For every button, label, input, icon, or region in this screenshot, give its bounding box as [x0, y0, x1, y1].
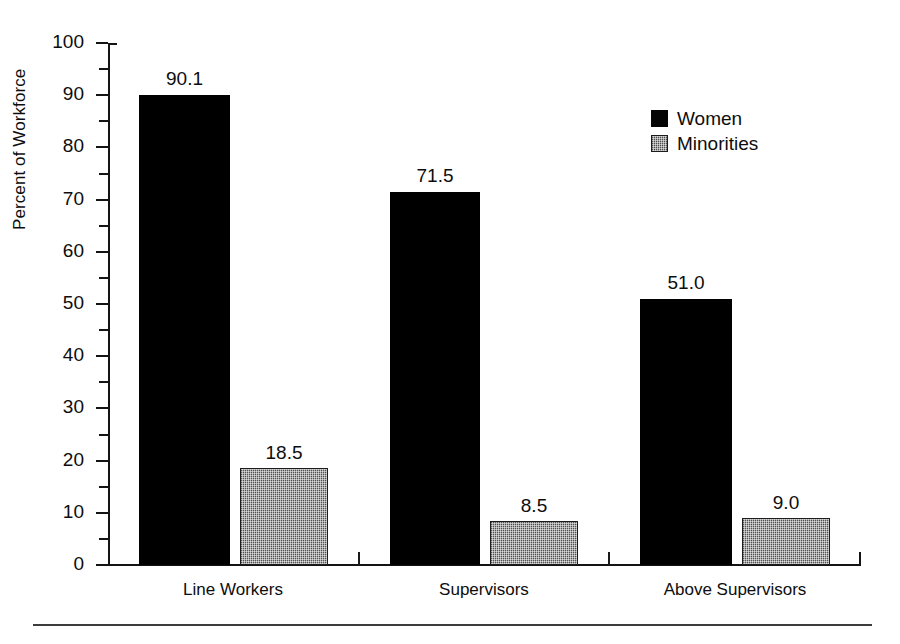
y-axis-tick	[96, 199, 108, 201]
bar-chart-figure: Percent of Workforce 1009080706050403020…	[0, 0, 900, 644]
bar-women-2: 51.0	[640, 299, 732, 565]
y-axis-tick-label: 80	[0, 135, 84, 157]
bar-women-1: 71.5	[390, 192, 480, 565]
y-axis-tick	[96, 303, 108, 305]
legend-swatch-minorities-icon	[651, 135, 668, 152]
bar-value-label: 90.1	[166, 68, 203, 90]
y-axis-minor-tick	[99, 173, 108, 175]
y-axis-tick-label: 40	[0, 344, 84, 366]
legend-label-women: Women	[677, 109, 742, 128]
bar-value-label: 8.5	[521, 495, 547, 517]
y-axis-tick	[96, 94, 108, 96]
bar-value-label: 51.0	[668, 272, 705, 294]
legend-item-minorities: Minorities	[651, 131, 758, 156]
bar-value-label: 9.0	[773, 492, 799, 514]
legend-item-women: Women	[651, 106, 758, 131]
x-axis-category-label: Above Supervisors	[664, 580, 807, 600]
bar-women-0: 90.1	[139, 95, 230, 565]
y-axis-tick	[96, 146, 108, 148]
bar-value-label: 18.5	[266, 442, 303, 464]
legend-swatch-women-icon	[651, 110, 668, 127]
x-axis-category-label: Supervisors	[439, 580, 529, 600]
bottom-rule-divider	[33, 624, 872, 626]
y-axis-tick-label: 90	[0, 83, 84, 105]
y-axis-minor-tick	[99, 434, 108, 436]
y-axis-minor-tick	[99, 538, 108, 540]
y-axis-tick-label: 50	[0, 292, 84, 314]
y-axis-tick	[96, 42, 108, 44]
y-axis-tick-label: 0	[0, 553, 84, 575]
y-axis-tick	[96, 251, 108, 253]
y-axis-tick	[96, 407, 108, 409]
y-axis-tick	[96, 564, 108, 566]
y-axis-tick	[96, 460, 108, 462]
y-axis-minor-tick	[99, 120, 108, 122]
bar-value-label: 71.5	[417, 165, 454, 187]
legend: Women Minorities	[651, 106, 758, 156]
y-axis-minor-tick	[99, 277, 108, 279]
y-axis-minor-tick	[99, 225, 108, 227]
x-axis-category-label: Line Workers	[183, 580, 283, 600]
legend-label-minorities: Minorities	[677, 134, 758, 153]
y-axis-tick-label: 70	[0, 188, 84, 210]
y-axis-tick	[96, 355, 108, 357]
y-axis-tick-label: 30	[0, 396, 84, 418]
y-axis-tick-label: 10	[0, 501, 84, 523]
y-axis-tick-label: 100	[0, 31, 84, 53]
bar-minorities-2: 9.0	[742, 518, 830, 565]
bar-minorities-0: 18.5	[240, 468, 328, 565]
bar-minorities-1: 8.5	[490, 521, 578, 565]
y-axis-minor-tick	[99, 381, 108, 383]
y-axis-tick	[96, 512, 108, 514]
y-axis-minor-tick	[99, 329, 108, 331]
y-axis-minor-tick	[99, 68, 108, 70]
y-axis-tick-label: 60	[0, 240, 84, 262]
y-axis-minor-tick	[99, 486, 108, 488]
y-axis-tick-label: 20	[0, 449, 84, 471]
